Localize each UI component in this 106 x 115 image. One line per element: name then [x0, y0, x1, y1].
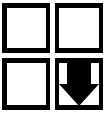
grid-cell-bottom-left-label — [0, 56, 1, 57]
icon-grid-canvas — [0, 0, 106, 115]
square-grid — [0, 0, 106, 115]
square-outline-bottom-right — [55, 58, 103, 110]
grid-cell-top-right-label — [53, 0, 54, 1]
square-outline-top-left — [2, 3, 50, 53]
square-outline-top-right — [55, 3, 103, 53]
square-outline-bottom-left — [2, 58, 50, 110]
grid-cell-top-left[interactable] — [0, 0, 53, 56]
grid-cell-top-right[interactable] — [53, 0, 106, 56]
grid-cell-bottom-right-label — [53, 56, 54, 57]
grid-cell-bottom-left[interactable] — [0, 56, 53, 115]
grid-cell-top-left-label — [0, 0, 1, 1]
grid-cell-bottom-right[interactable] — [53, 56, 106, 115]
